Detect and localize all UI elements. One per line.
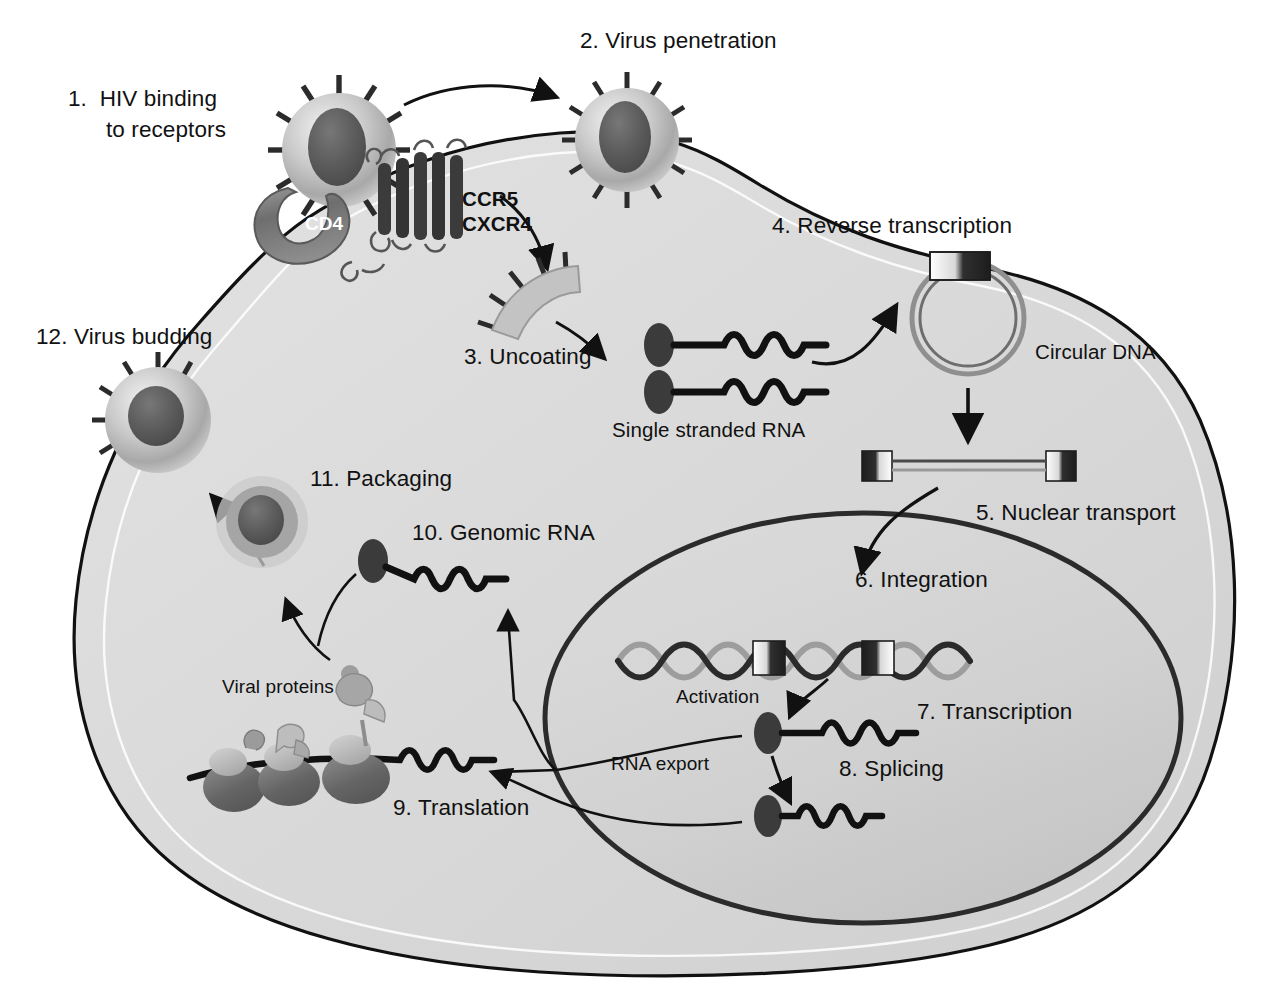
step-10-label: 10. Genomic RNA <box>412 520 595 546</box>
step-4-label: 4. Reverse transcription <box>772 213 1012 239</box>
circular-dna-label: Circular DNA <box>1035 340 1156 364</box>
step-7-label: 7. Transcription <box>917 699 1072 725</box>
step-3-label: 3. Uncoating <box>464 344 592 370</box>
step-8-label: 8. Splicing <box>839 756 944 782</box>
cxcr4-label: CXCR4 <box>462 212 532 236</box>
step-9-label: 9. Translation <box>393 795 529 821</box>
immature-particle <box>216 476 308 568</box>
step-11-label: 11. Packaging <box>310 466 452 492</box>
step-12-label: 12. Virus budding <box>36 324 212 350</box>
rna-export-label: RNA export <box>611 753 709 775</box>
step-2-label: 2. Virus penetration <box>580 28 777 54</box>
ccr5-label: CCR5 <box>462 187 518 211</box>
step-6-label: 6. Integration <box>855 567 988 593</box>
hiv-replication-cycle-figure: 1. HIV binding to receptors 2. Virus pen… <box>0 0 1278 1001</box>
activation-label: Activation <box>676 686 759 708</box>
step-1-label-line1: 1. HIV binding <box>68 86 217 112</box>
step-5-label: 5. Nuclear transport <box>976 500 1176 526</box>
single-stranded-rna-label: Single stranded RNA <box>612 418 805 442</box>
arrow-binding-to-penetration <box>404 86 556 105</box>
step-1-label-line2: to receptors <box>106 117 226 143</box>
cd4-label: CD4 <box>305 213 343 235</box>
viral-proteins-label: Viral proteins <box>222 676 334 698</box>
